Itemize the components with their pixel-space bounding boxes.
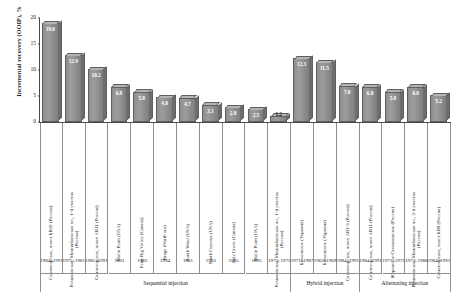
bar[interactable]: 1.2: [270, 116, 287, 122]
date-label: 1961: [177, 248, 200, 274]
bar-value-label: 4.7: [180, 101, 195, 107]
bar-chart: Incremental recovery (OOIP), % 05101520 …: [0, 0, 458, 303]
bar[interactable]: 5.8: [133, 92, 150, 122]
bar-value-label: 6.8: [363, 90, 378, 96]
bar[interactable]: 6.8: [362, 87, 379, 122]
bar-slot: 5.2: [428, 18, 451, 122]
bar[interactable]: 5.8: [385, 92, 402, 122]
bar-slot: 11.5: [314, 18, 337, 122]
date-label: 1984–1991: [428, 248, 451, 274]
y-tick-label: 15: [22, 41, 36, 47]
bar-value-label: 5.8: [134, 95, 149, 101]
bar-slot: 3.3: [200, 18, 223, 122]
date-label: 1973–1975: [268, 248, 291, 274]
bar-value-label: 10.2: [89, 72, 104, 78]
bar-value-label: 2.5: [249, 112, 264, 118]
bar-slot: 12.9: [63, 18, 86, 122]
plot-area: 19.012.910.26.85.84.84.73.32.82.51.212.3…: [40, 18, 451, 122]
bar[interactable]: 3.3: [202, 105, 219, 122]
y-tick-label: 0: [22, 119, 36, 125]
category-cell: Самотлорское, пласт БВ8 (Россия): [428, 123, 451, 248]
bar[interactable]: 4.7: [179, 98, 196, 122]
category-text-wrap: Самотлорское, пласт БВ8 (Россия): [403, 125, 458, 245]
group-label: Hybrid injection: [291, 274, 360, 292]
bar-value-label: 6.8: [112, 90, 127, 96]
date-label: 1985–1991: [86, 248, 109, 274]
bar[interactable]: 2.8: [225, 107, 242, 122]
category-label-band: Самотлорское, пласт БВ10 (Россия)Романов…: [40, 123, 451, 248]
bar-slot: 6.8: [360, 18, 383, 122]
bar-value-label: 3.3: [203, 108, 218, 114]
bar-slot: 7.0: [337, 18, 360, 122]
bar-value-label: 12.3: [294, 61, 309, 67]
bar-slot: 4.8: [154, 18, 177, 122]
bar-value-label: 2.8: [226, 110, 241, 116]
y-axis-ticks: 05101520: [22, 18, 38, 122]
bar-slot: 5.8: [131, 18, 154, 122]
bar-slot: 1.2: [268, 18, 291, 122]
bar-slot: 5.8: [383, 18, 406, 122]
bar-value-label: 4.8: [157, 100, 172, 106]
date-label: 1984–1991: [360, 248, 383, 274]
bar-slot: 12.3: [291, 18, 314, 122]
y-tick-label: 10: [22, 67, 36, 73]
bar-slot: 4.7: [177, 18, 200, 122]
bar-value-label: 7.0: [340, 89, 355, 95]
bar[interactable]: 6.8: [407, 87, 424, 122]
bar-value-label: 5.8: [386, 95, 401, 101]
bar[interactable]: 4.8: [156, 97, 173, 122]
bar-slot: 2.5: [246, 18, 269, 122]
bar-slot: 10.2: [86, 18, 109, 122]
date-label: 1984–1991: [337, 248, 360, 274]
date-label: 1984–1991: [40, 248, 63, 274]
y-tick-label: 5: [22, 93, 36, 99]
bar-value-label: 12.9: [66, 58, 81, 64]
date-label: 1971–1975: [383, 248, 406, 274]
date-label: 1962–1969: [314, 248, 337, 274]
date-label: 1971–1987: [291, 248, 314, 274]
group-label-band: Sequential injectionHybrid injectionAlte…: [40, 274, 451, 292]
date-label: 1975–1981: [63, 248, 86, 274]
bar[interactable]: 7.0: [339, 86, 356, 122]
group-label: Alternating injection: [360, 274, 451, 292]
date-label: 1995: [246, 248, 269, 274]
date-label: 1994: [154, 248, 177, 274]
bar-value-label: 11.5: [317, 65, 332, 71]
bar[interactable]: 10.2: [88, 69, 105, 122]
date-label: 1983: [131, 248, 154, 274]
bar[interactable]: 12.9: [65, 55, 82, 122]
bar-value-label: 19.0: [43, 26, 58, 32]
bar-value-label: 6.8: [408, 90, 423, 96]
bar[interactable]: 2.5: [248, 109, 265, 122]
bar[interactable]: 12.3: [293, 58, 310, 122]
date-label: 1985: [223, 248, 246, 274]
date-label-band: 1984–19911975–19811985–19912001198319941…: [40, 248, 451, 274]
date-label: 2001: [109, 248, 132, 274]
date-label: 1963: [200, 248, 223, 274]
bar-value-label: 1.2: [271, 111, 286, 117]
bar-slot: 19.0: [40, 18, 63, 122]
bar[interactable]: 19.0: [42, 23, 59, 122]
bar-slot: 2.8: [223, 18, 246, 122]
y-axis-title: Incremental recovery (OOIP), %: [15, 0, 22, 122]
group-label: Sequential injection: [40, 274, 291, 292]
bar[interactable]: 5.2: [430, 95, 447, 122]
bar[interactable]: 6.8: [111, 87, 128, 122]
bar-value-label: 5.2: [431, 98, 446, 104]
bar-slot: 6.8: [405, 18, 428, 122]
date-label: 1973–1988: [405, 248, 428, 274]
bar-slot: 6.8: [109, 18, 132, 122]
y-tick-label: 20: [22, 15, 36, 21]
bar[interactable]: 11.5: [316, 62, 333, 122]
